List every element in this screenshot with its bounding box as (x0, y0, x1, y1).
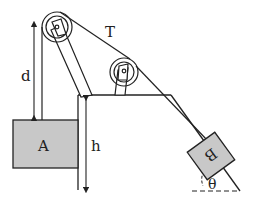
pulley-middle (110, 58, 138, 86)
rope-to-block-b (136, 66, 208, 141)
block-a-label: A (37, 137, 49, 155)
pulley-1-support (51, 25, 92, 97)
pulley-incline-diagram: θ T A B d h (0, 0, 260, 203)
block-b: B (187, 132, 234, 179)
distance-d-label: d (21, 67, 31, 85)
tension-label: T (105, 23, 115, 41)
height-h-label: h (91, 137, 101, 155)
